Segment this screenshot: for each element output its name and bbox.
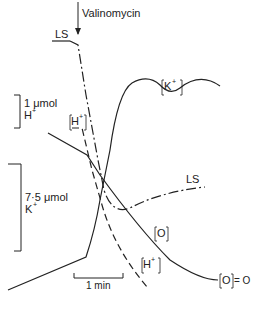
svg-text:K: K bbox=[25, 203, 33, 215]
svg-text:+: + bbox=[172, 78, 176, 85]
o-trace bbox=[48, 133, 218, 280]
diagram-figure: Valinomycin LS LS K + H + H + O O = O 1 … bbox=[0, 0, 254, 310]
svg-text:1 μmol: 1 μmol bbox=[24, 97, 57, 109]
h-scale-label: 1 μmol H + bbox=[24, 97, 57, 121]
svg-text:H: H bbox=[24, 109, 32, 121]
svg-text:= O: = O bbox=[234, 275, 251, 286]
svg-text:+: + bbox=[33, 201, 37, 208]
time-scale-bar bbox=[74, 273, 123, 278]
o-zero-label: O = O bbox=[220, 274, 251, 288]
k-scale-label: 7·5 μmol K + bbox=[25, 191, 68, 215]
h-scale-bar bbox=[14, 95, 20, 128]
svg-text:+: + bbox=[151, 256, 155, 263]
k-plus-label: K + bbox=[162, 78, 182, 95]
svg-text:O: O bbox=[157, 227, 166, 239]
ls-trace bbox=[70, 41, 205, 210]
svg-text:O: O bbox=[222, 274, 231, 286]
svg-text:7·5 μmol: 7·5 μmol bbox=[25, 191, 68, 203]
ls-top-label: LS bbox=[55, 28, 68, 40]
k-scale-bar bbox=[8, 164, 21, 251]
svg-text:+: + bbox=[32, 107, 36, 114]
svg-text:H: H bbox=[143, 258, 151, 270]
ls-right-label: LS bbox=[186, 173, 199, 185]
o-trace-label: O bbox=[155, 227, 168, 241]
valinomycin-label: Valinomycin bbox=[82, 7, 141, 19]
valinomycin-arrow bbox=[75, 2, 81, 35]
svg-text:+: + bbox=[79, 113, 83, 120]
h-plus-bottom-label: H + bbox=[142, 256, 160, 273]
svg-text:H: H bbox=[71, 115, 79, 127]
svg-text:K: K bbox=[164, 80, 172, 92]
time-scale-label: 1 min bbox=[86, 280, 110, 291]
